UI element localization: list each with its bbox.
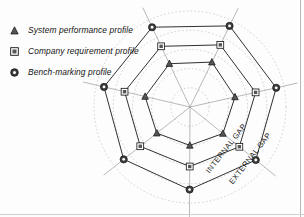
legend-label-benchmarking: Bench-marking profile bbox=[28, 67, 112, 77]
square-marker-core bbox=[123, 90, 126, 93]
data-point-circle bbox=[148, 24, 155, 31]
legend-item-system-performance: System performance profile bbox=[10, 24, 139, 36]
legend-label-system-performance: System performance profile bbox=[28, 25, 133, 35]
square-marker-core bbox=[238, 145, 241, 148]
figure-right-border bbox=[300, 0, 301, 217]
data-point-triangle bbox=[220, 130, 227, 136]
data-point-square bbox=[252, 89, 259, 96]
data-point-square bbox=[236, 143, 243, 150]
radar-axis-spoke bbox=[190, 83, 297, 107]
triangle-marker-icon bbox=[220, 130, 227, 136]
data-point-circle bbox=[273, 84, 280, 91]
circle-marker-icon bbox=[10, 68, 19, 77]
data-point-circle bbox=[120, 156, 127, 163]
legend: System performance profile Company requi… bbox=[10, 24, 139, 78]
triangle-marker-icon bbox=[209, 59, 216, 65]
square-marker-icon bbox=[10, 47, 19, 56]
square-marker-core bbox=[188, 165, 191, 168]
data-point-square bbox=[121, 88, 128, 95]
radar-axis-spoke bbox=[189, 107, 190, 217]
circle-marker-core bbox=[103, 86, 106, 89]
radar-axis-spoke bbox=[143, 8, 190, 107]
triangle-marker-icon bbox=[10, 26, 19, 35]
circle-marker-core bbox=[275, 86, 278, 89]
data-point-square bbox=[186, 163, 193, 170]
data-point-square bbox=[137, 143, 144, 150]
square-marker-core bbox=[159, 45, 162, 48]
square-marker-core bbox=[254, 91, 257, 94]
data-point-circle bbox=[186, 186, 193, 193]
square-marker-core bbox=[139, 145, 142, 148]
circle-marker-core bbox=[151, 26, 154, 29]
gap-analysis-figure: INTERNAL GAPEXTERNAL GAP System performa… bbox=[0, 0, 304, 217]
data-point-triangle bbox=[154, 130, 161, 136]
circle-marker-core bbox=[122, 158, 125, 161]
data-point-circle bbox=[100, 83, 107, 90]
square-marker-core bbox=[219, 43, 222, 46]
legend-label-company-requirement: Company requirement profile bbox=[28, 46, 139, 56]
data-point-square bbox=[158, 43, 165, 50]
legend-item-benchmarking: Bench-marking profile bbox=[10, 66, 139, 78]
figure-bottom-border bbox=[0, 214, 304, 215]
circle-marker-core bbox=[188, 188, 191, 191]
legend-item-company-requirement: Company requirement profile bbox=[10, 45, 139, 57]
circle-marker-core bbox=[228, 24, 231, 27]
triangle-marker-icon bbox=[154, 130, 161, 136]
data-point-triangle bbox=[209, 59, 216, 65]
data-point-square bbox=[217, 41, 224, 48]
data-point-circle bbox=[226, 22, 233, 29]
